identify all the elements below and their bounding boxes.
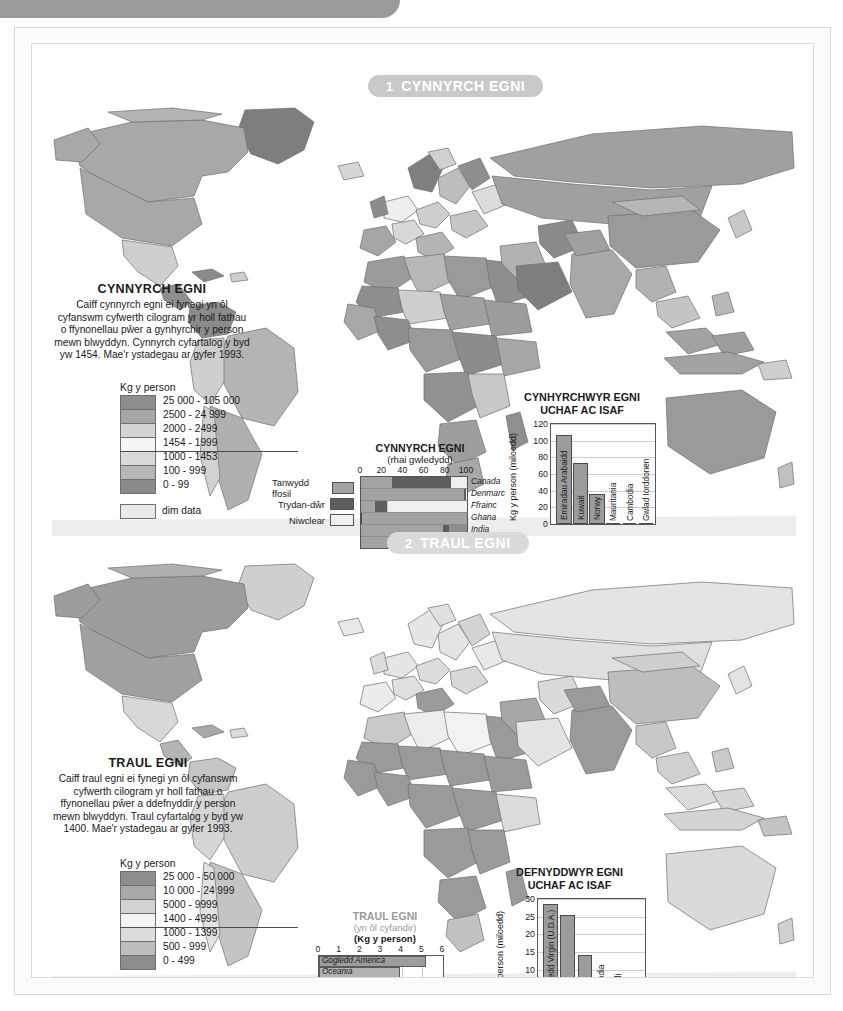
bar-label: Mauritania [608, 483, 617, 521]
legend-row: 10 000 - 24 999 [121, 886, 155, 900]
map-legend-production: Kg y person 25 000 - 105 000 2500 - 24 9… [94, 382, 294, 494]
y-tick: 10 [525, 965, 535, 975]
bar-label: Cambodia [597, 965, 606, 978]
legend-entry-label: Trydan-dŵr [278, 499, 325, 510]
chart-x-axis: 0 1 2 3 4 5 6 [318, 944, 442, 955]
section-number: 2 [405, 536, 412, 551]
legend-nodata-swatch [120, 504, 156, 519]
chart-bar-row: Denmarc [361, 489, 467, 501]
legend-label: 0 - 99 [163, 479, 189, 490]
x-tick: 60 [419, 465, 429, 475]
section-title: CYNNYRCH EGNI [401, 78, 525, 94]
legend-nodata-label: dim data [162, 505, 201, 516]
legend-label: 5000 - 9999 [163, 899, 217, 910]
legend-label: 2000 - 2499 [163, 423, 217, 434]
chart-plot-body: Kg y person (miloedd) 30 25 20 15 10 5 0… [487, 896, 652, 978]
legend-label: 25 000 - 105 000 [163, 395, 240, 406]
bar-label: Gwlad Iorddonen [642, 459, 651, 521]
legend-label: 2500 - 24 999 [163, 409, 226, 420]
legend-swatch [332, 482, 354, 494]
y-tick: 25 [525, 912, 535, 922]
chart-title: CYNNYRCH EGNI [320, 442, 520, 454]
legend-row: 1000 - 1453 [121, 452, 155, 466]
x-tick: 0 [316, 944, 321, 954]
legend-label: 100 - 999 [163, 465, 206, 476]
legend-entry-nuclear: Niwclear [272, 512, 354, 528]
section-header-1: 1 CYNNYRCH EGNI [368, 75, 543, 97]
page-frame: 1 CYNNYRCH EGNI [14, 27, 831, 995]
x-tick: 1 [336, 944, 341, 954]
x-tick: 5 [419, 944, 424, 954]
y-tick: 100 [533, 436, 548, 446]
bar-row-label: Ffrainc [471, 500, 497, 510]
legend-row: 2000 - 2499 [121, 424, 155, 438]
chart-legend: Tanwydd ffosil Trydan-dŵr Niwclear [272, 480, 354, 528]
legend-row: 1454 - 1999 [121, 438, 155, 452]
legend-swatch [330, 498, 354, 510]
bar-row-label: Denmarc [471, 488, 505, 498]
legend-label: 10 000 - 24 999 [163, 885, 234, 896]
legend-swatch-column: 25 000 - 105 000 2500 - 24 999 2000 - 24… [120, 395, 156, 494]
legend-title: Kg y person [120, 858, 294, 869]
chart-plot-area: Gogledd America Oceania Ewrop De America… [318, 955, 444, 978]
chart-bar: Qatar [560, 915, 575, 978]
chart-y-axis-label: Kg y person (miloedd) [495, 911, 505, 978]
legend-row: 25 000 - 50 000 [121, 872, 155, 886]
section-number: 1 [386, 79, 393, 94]
x-tick: 2 [357, 944, 362, 954]
legend-label: 25 000 - 50 000 [163, 871, 234, 882]
legend-swatch-column: 25 000 - 50 000 10 000 - 24 999 5000 - 9… [120, 871, 156, 970]
chart-x-axis: 0 20 40 60 80 100 [360, 465, 466, 476]
y-tick: 120 [533, 419, 548, 429]
chart-plot-area: 30 25 20 15 10 5 0 Ynysoedd Virgin (U.D.… [537, 898, 646, 978]
x-tick: 80 [440, 465, 450, 475]
legend-label: 1454 - 1999 [163, 437, 217, 448]
bar-label: Burundi [614, 974, 623, 978]
bar-label: Oceania [322, 967, 353, 976]
legend-swatch [330, 514, 354, 526]
chart-consumption-by-continent: TRAUL EGNI (yn ôl cyfandir) (Kg y person… [310, 910, 460, 978]
chart-title-line1: CYNHYRCHWYR EGNI [502, 391, 662, 404]
info-text: Caiff cynnyrch egni ei fynegi yn ôl cyfa… [54, 299, 250, 362]
y-tick: 20 [525, 929, 535, 939]
legend-average-rule [120, 451, 298, 452]
legend-label: 1000 - 1453 [163, 451, 217, 462]
legend-label: 1400 - 4999 [163, 913, 217, 924]
y-tick: 15 [525, 947, 535, 957]
y-tick: 30 [525, 894, 535, 904]
x-tick: 0 [358, 465, 363, 475]
y-tick: 40 [538, 486, 548, 496]
chart-title: TRAUL EGNI [310, 910, 460, 922]
bar-row-label: Ghana [471, 512, 496, 522]
legend-entry-fossil: Tanwydd ffosil [272, 480, 354, 496]
chart-top-consumers: DEFNYDDWYR EGNI UCHAF AC ISAF Kg y perso… [487, 866, 652, 978]
chart-bar: E.A.U. [578, 955, 593, 978]
y-tick: 20 [538, 502, 548, 512]
legend-label: 0 - 499 [163, 955, 195, 966]
chart-bar: Gwlad Iorddonen [639, 523, 653, 524]
x-tick: 40 [398, 465, 408, 475]
map-legend-consumption: Kg y person 25 000 - 50 000 10 000 - 24 … [94, 858, 294, 970]
legend-average-rule [120, 927, 298, 928]
chart-plot-area: 120 100 80 60 40 20 0 Emiradau Arabaidd … [550, 423, 656, 525]
legend-row: 1000 - 1399 [121, 928, 155, 942]
bar-label: Gogledd America [322, 956, 385, 965]
bar-label: Kuwait [576, 495, 585, 520]
x-tick: 100 [459, 465, 473, 475]
chart-bar: Ynysoedd Virgin (U.D.A.) [543, 904, 558, 978]
chart-bar-row: Canada [361, 477, 467, 489]
legend-row: 0 - 99 [121, 480, 155, 493]
chart-bar-row: Ghana [361, 513, 467, 525]
chart-bar-row: Gogledd America [319, 956, 443, 967]
bar-label: Emiradau Arabaidd [559, 450, 568, 520]
bar-row-label: Canada [471, 476, 500, 486]
chart-subtitle-units: (Kg y person) [310, 933, 460, 944]
section-title: TRAUL EGNI [420, 535, 510, 551]
chart-bar: Cambodia [623, 523, 637, 524]
chart-bar: Kuwait [573, 463, 589, 524]
info-text: Caiff traul egni ei fynegi yn ôl cyfansw… [50, 773, 246, 836]
legend-row: 100 - 999 [121, 466, 155, 480]
chart-top-producers: CYNHYRCHWYR EGNI UCHAF AC ISAF Kg y pers… [502, 391, 662, 533]
legend-label: 500 - 999 [163, 941, 206, 952]
top-banner-decoration [0, 0, 400, 18]
